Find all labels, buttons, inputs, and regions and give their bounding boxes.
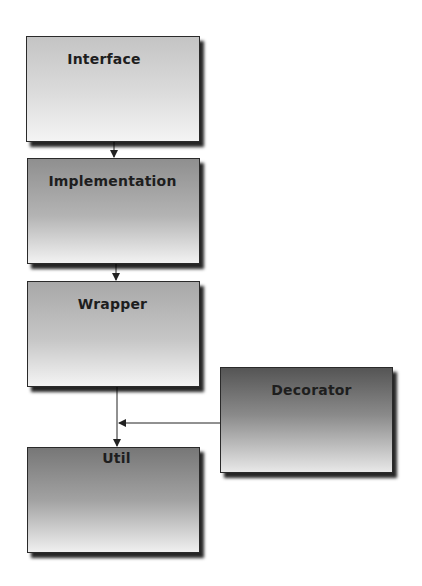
node-implementation[interactable]: Implementation (27, 158, 200, 264)
node-wrapper[interactable]: Wrapper (27, 281, 200, 387)
node-label: Decorator (231, 382, 392, 398)
node-decorator[interactable]: Decorator (220, 367, 393, 473)
node-label: Implementation (26, 173, 199, 189)
node-interface[interactable]: Interface (26, 36, 200, 142)
node-util[interactable]: Util (27, 447, 200, 553)
node-label: Util (34, 450, 199, 466)
node-label: Interface (9, 51, 199, 67)
node-label: Wrapper (26, 296, 199, 312)
